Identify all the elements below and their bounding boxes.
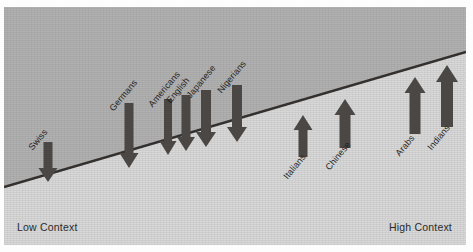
figure-canvas: SwissGermansAmericansEnglishJapaneseNige… (0, 0, 473, 252)
arrow-arabs (405, 77, 426, 134)
high-context-label: High Context (389, 221, 452, 233)
arrow-group (39, 65, 459, 182)
context-continuum-diagram: SwissGermansAmericansEnglishJapaneseNige… (4, 7, 466, 245)
arrow-english (177, 95, 195, 151)
arrow-germans (120, 103, 139, 168)
arrow-indians (436, 65, 458, 127)
arrow-italians (294, 115, 313, 157)
diagram-vector-layer (4, 7, 466, 245)
arrow-americans (160, 99, 177, 155)
low-context-label: Low Context (17, 221, 78, 233)
arrow-japanese (196, 90, 216, 147)
arrow-nigerians (227, 85, 247, 142)
